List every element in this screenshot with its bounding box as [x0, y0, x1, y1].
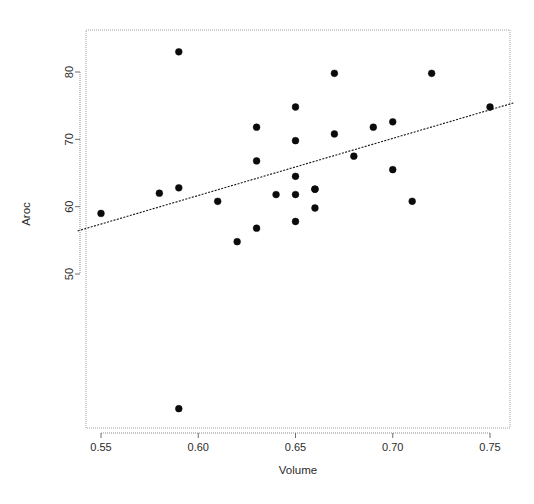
data-point — [214, 198, 221, 205]
data-point — [292, 173, 299, 180]
plot-canvas: 0.550.600.650.700.75 50607080 Volume Aro… — [0, 0, 534, 504]
x-tick-label: 0.75 — [479, 441, 500, 453]
data-point — [331, 131, 338, 138]
data-point — [370, 124, 377, 131]
data-point — [292, 137, 299, 144]
x-tick-label: 0.60 — [188, 441, 209, 453]
data-point — [273, 191, 280, 198]
data-point — [156, 190, 163, 197]
data-point — [253, 157, 260, 164]
data-point — [292, 218, 299, 225]
data-point — [409, 198, 416, 205]
y-tick-label: 70 — [63, 133, 75, 145]
data-point — [312, 186, 319, 193]
data-point — [175, 405, 182, 412]
panel-border — [86, 30, 510, 428]
regression-line — [78, 103, 514, 231]
y-tick-label: 80 — [63, 66, 75, 78]
data-point — [487, 104, 494, 111]
x-tick-label: 0.70 — [382, 441, 403, 453]
data-point — [253, 225, 260, 232]
data-point — [389, 166, 396, 173]
y-axis-title: Aroc — [20, 202, 32, 226]
y-tick-label: 60 — [63, 201, 75, 213]
data-point — [175, 184, 182, 191]
data-point — [389, 118, 396, 125]
data-point — [292, 104, 299, 111]
regression-line — [78, 103, 514, 231]
data-point — [292, 191, 299, 198]
data-point — [312, 205, 319, 212]
data-point — [234, 238, 241, 245]
y-axis: 50607080 — [63, 66, 80, 280]
data-point — [253, 124, 260, 131]
x-axis-title: Volume — [279, 464, 317, 476]
scatter-plot-figure: 0.550.600.650.700.75 50607080 Volume Aro… — [0, 0, 534, 504]
data-point — [98, 210, 105, 217]
y-tick-label: 50 — [63, 268, 75, 280]
x-axis: 0.550.600.650.700.75 — [90, 433, 500, 453]
data-point — [175, 48, 182, 55]
plot-panel — [86, 30, 510, 428]
data-point — [331, 70, 338, 77]
data-point — [428, 70, 435, 77]
data-points-group — [98, 48, 494, 412]
x-tick-label: 0.65 — [285, 441, 306, 453]
x-tick-label: 0.55 — [90, 441, 111, 453]
data-point — [350, 153, 357, 160]
